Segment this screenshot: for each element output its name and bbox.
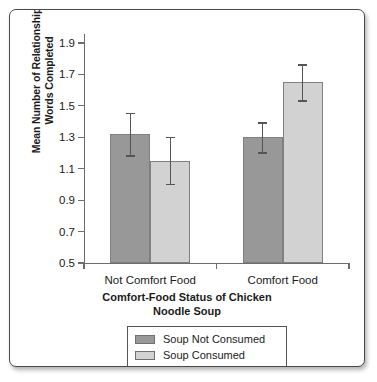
error-bar-line	[130, 114, 131, 156]
y-tick-label: 1.3	[59, 131, 75, 143]
y-tick-label: 1.7	[59, 68, 75, 80]
y-tick	[78, 200, 84, 201]
x-tick	[216, 263, 217, 269]
y-tick	[78, 137, 84, 138]
error-bar-cap-bottom	[298, 100, 307, 101]
error-bar-line	[170, 137, 171, 184]
error-bar-line	[302, 65, 303, 101]
error-bar-cap-top	[258, 122, 267, 123]
y-axis-title-line2: Words Completed	[42, 36, 54, 124]
y-tick	[78, 42, 84, 43]
bar-soup-consumed-comfort-food	[283, 82, 323, 263]
y-tick-label: 0.5	[59, 257, 75, 269]
figure-frame: Mean Number of Relationship Words Comple…	[9, 9, 365, 367]
bar-soup-not-consumed-comfort-food	[243, 137, 283, 263]
legend-swatch-icon	[135, 335, 155, 344]
x-category-label: Not Comfort Food	[105, 274, 196, 286]
legend-label: Soup Not Consumed	[163, 333, 265, 345]
legend-label: Soup Consumed	[163, 349, 245, 361]
x-tick	[83, 263, 84, 269]
x-axis-title: Comfort-Food Status of Chicken Noodle So…	[10, 291, 364, 318]
y-axis-line	[84, 34, 85, 264]
x-category-label: Comfort Food	[248, 274, 318, 286]
error-bar-cap-top	[166, 137, 175, 138]
x-tick	[348, 263, 349, 269]
y-axis-title: Mean Number of Relationship Words Comple…	[30, 9, 55, 181]
y-tick-label: 1.9	[59, 37, 75, 49]
y-tick	[78, 168, 84, 169]
y-tick-label: 1.5	[59, 100, 75, 112]
error-bar-line	[262, 123, 263, 153]
legend-item[interactable]: Soup Consumed	[135, 347, 280, 363]
y-tick	[78, 105, 84, 106]
error-bar-cap-top	[126, 113, 135, 114]
plot-area: 1.91.71.51.31.10.90.70.5 Not Comfort Foo…	[84, 34, 349, 279]
error-bar-cap-top	[298, 64, 307, 65]
y-axis-title-line1: Mean Number of Relationship	[30, 9, 42, 153]
legend-swatch-icon	[135, 351, 155, 360]
y-tick-label: 0.9	[59, 194, 75, 206]
error-bar-cap-bottom	[166, 184, 175, 185]
x-axis-title-line2: Noodle Soup	[153, 305, 221, 317]
legend: Soup Not ConsumedSoup Consumed	[127, 326, 287, 367]
error-bar-cap-bottom	[258, 152, 267, 153]
legend-item[interactable]: Soup Not Consumed	[135, 331, 280, 347]
y-tick	[78, 231, 84, 232]
y-tick-label: 1.1	[59, 163, 75, 175]
y-tick-label: 0.7	[59, 226, 75, 238]
error-bar-cap-bottom	[126, 155, 135, 156]
x-axis-title-line1: Comfort-Food Status of Chicken	[102, 291, 271, 303]
y-tick	[78, 74, 84, 75]
